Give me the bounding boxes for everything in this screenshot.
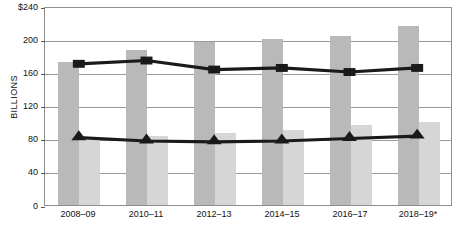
marker-square <box>411 64 423 72</box>
y-axis-tick-label: 40 <box>28 168 38 177</box>
marker-triangle <box>342 131 357 141</box>
marker-triangle <box>139 134 154 144</box>
x-axis-tick-label: 2018–19* <box>399 209 438 219</box>
y-axis-tickmark <box>41 207 45 208</box>
marker-square <box>73 60 85 68</box>
marker-square <box>276 64 288 72</box>
y-axis-tick-label: $240 <box>18 3 38 12</box>
chart-figure: BILLIONS 04080120160200$240 2008–092010–… <box>0 0 459 227</box>
marker-square <box>141 57 153 65</box>
y-axis-tick-label: 120 <box>23 102 38 111</box>
marker-square <box>208 66 220 74</box>
y-axis-tick-label: 160 <box>23 69 38 78</box>
x-axis-tick-label: 2014–15 <box>264 209 299 219</box>
marker-triangle <box>274 134 289 144</box>
plot-area <box>44 7 452 206</box>
x-axis-tick-label: 2010–11 <box>129 209 163 219</box>
line-path <box>79 61 417 72</box>
marker-triangle <box>71 130 86 140</box>
marker-square <box>344 68 356 76</box>
marker-triangle <box>207 134 222 144</box>
x-axis-tick-label: 2016–17 <box>332 209 367 219</box>
marker-triangle <box>410 129 425 139</box>
x-axis-tick-label: 2012–13 <box>196 209 231 219</box>
y-axis-tick-label: 80 <box>28 135 38 144</box>
y-axis-tick-label: 0 <box>33 202 38 211</box>
line-path <box>79 136 417 142</box>
lines-layer <box>45 8 451 205</box>
x-axis-tick-label: 2008–09 <box>60 209 95 219</box>
y-axis-tick-labels: 04080120160200$240 <box>0 0 42 227</box>
x-axis-tick-labels: 2008–092010–112012–132014–152016–172018–… <box>44 209 452 227</box>
y-axis-tick-label: 200 <box>23 36 38 45</box>
